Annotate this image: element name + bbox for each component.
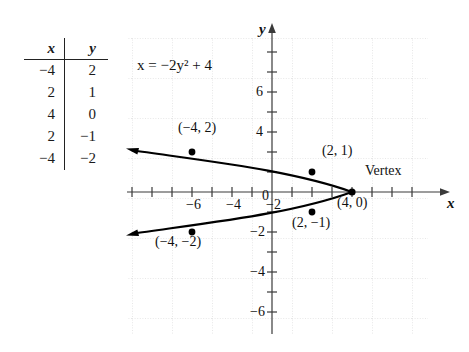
point-label-2--1: (2, −1)	[292, 216, 330, 230]
point-label-4-0: (4, 0)	[337, 196, 367, 210]
y-tick-label--6: −6	[250, 305, 265, 319]
y-tick-label-4: 4	[256, 125, 263, 139]
point-label--4-2: (−4, 2)	[178, 121, 216, 135]
grid	[127, 38, 428, 334]
y-tick-label-6: 6	[256, 85, 263, 99]
graph-figure: x y −4 2 2 1 4 0 2 −1 −4 −2	[0, 0, 469, 352]
y-tick-label--2: −2	[250, 225, 265, 239]
point-marker	[309, 169, 316, 176]
vertex-label: Vertex	[365, 164, 402, 178]
point-label--4--2: (−4, −2)	[155, 235, 201, 249]
y-tick-label--4: −4	[250, 265, 265, 279]
x-tick-label--6: −6	[186, 198, 201, 212]
x-tick-label-0: 0	[262, 189, 269, 203]
y-axis-letter: y	[259, 22, 266, 37]
x-axis-letter: x	[447, 196, 455, 211]
equation-label: x = −2y² + 4	[137, 58, 212, 73]
point-label-2-1: (2, 1)	[322, 144, 352, 158]
point-marker	[189, 149, 196, 156]
x-tick-label--4: −4	[226, 198, 241, 212]
